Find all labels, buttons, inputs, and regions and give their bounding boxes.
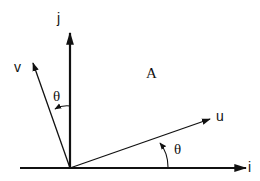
angle-arc-i-u xyxy=(160,143,168,167)
vector-v-label: v xyxy=(14,59,21,75)
rotation-diagram: i j v u A θ θ xyxy=(0,0,260,181)
vector-u-label: u xyxy=(216,108,224,124)
vector-v xyxy=(33,63,70,168)
angle-theta-j-v-label: θ xyxy=(53,88,60,104)
j-axis-label: j xyxy=(56,10,60,26)
region-label: A xyxy=(146,65,157,81)
angle-theta-i-u-label: θ xyxy=(174,141,181,157)
vector-u xyxy=(70,119,210,168)
angle-arc-j-v xyxy=(55,106,70,109)
i-axis-label: i xyxy=(248,159,251,175)
